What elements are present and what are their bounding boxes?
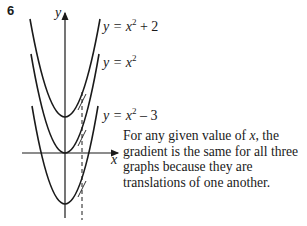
eq-lhs: y = <box>103 108 126 123</box>
explanation-part1: For any given value of <box>123 128 249 143</box>
label-curve-plus-2: y = x2 + 2 <box>103 19 158 35</box>
explanation-text: For any given value of x, the gradient i… <box>123 128 307 190</box>
label-curve-base: y = x2 <box>103 55 136 71</box>
x-axis-label: x <box>111 152 117 168</box>
eq-lhs: y = <box>103 55 126 70</box>
label-curve-minus-3: y = x2 – 3 <box>103 108 157 124</box>
eq-exp: 2 <box>132 53 137 63</box>
eq-rhs: – 3 <box>136 108 157 123</box>
eq-rhs: + 2 <box>136 19 158 34</box>
y-axis-label: y <box>55 5 61 21</box>
eq-lhs: y = <box>103 19 126 34</box>
